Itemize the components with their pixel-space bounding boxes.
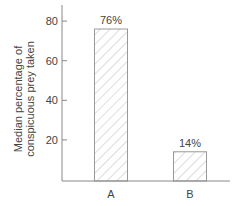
data-label-a: 76%	[100, 14, 122, 26]
bar-a	[95, 29, 128, 181]
y-tick-label: 80	[46, 15, 58, 27]
y-axis-title-line-2: conspicuous prey taken	[24, 41, 36, 157]
y-axis-title-line-1: Median percentage of	[12, 45, 24, 152]
x-category-label: A	[107, 188, 115, 200]
x-category-label: B	[186, 188, 193, 200]
y-tick-label: 40	[46, 94, 58, 106]
data-label-b: 14%	[179, 137, 201, 149]
bar-b	[174, 152, 207, 181]
y-axis-title: Median percentage of conspicuous prey ta…	[12, 41, 36, 157]
y-tick-label: 60	[46, 55, 58, 67]
y-tick-label: 20	[46, 134, 58, 146]
bar-chart: Median percentage of conspicuous prey ta…	[0, 0, 244, 206]
